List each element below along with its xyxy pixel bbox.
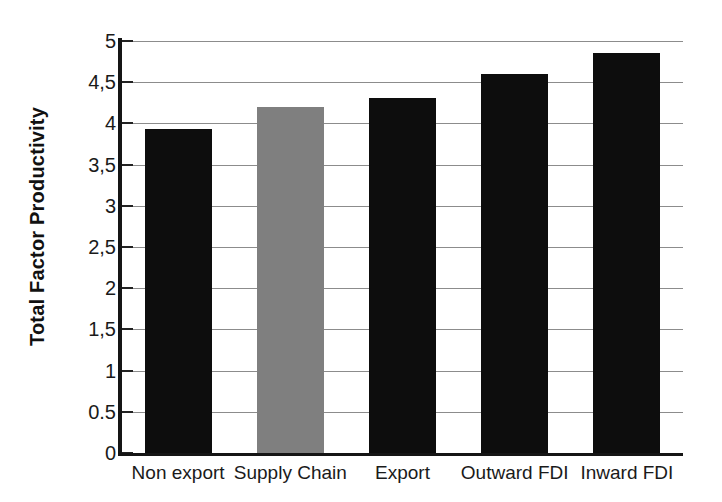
bar: [593, 53, 660, 453]
y-axis-tick-label: 5: [105, 30, 116, 53]
y-axis-tickmark: [122, 246, 133, 248]
y-axis-title-text: Total Factor Productivity: [27, 107, 50, 346]
bar: [369, 98, 436, 453]
x-axis-tick-label: Outward FDI: [461, 462, 569, 484]
x-axis-spine: [118, 453, 683, 456]
y-axis-tick-label: 4: [105, 112, 116, 135]
y-axis-tick-labels: 00.511,522,533,544,55: [58, 41, 116, 453]
bar: [145, 129, 212, 453]
y-axis-tick-label: 2: [105, 277, 116, 300]
x-axis-tick-label: Non export: [132, 462, 225, 484]
y-axis-tickmark: [122, 287, 133, 289]
y-axis-tickmark: [122, 205, 133, 207]
y-axis-tickmark: [122, 370, 133, 372]
plot-area: [122, 41, 683, 453]
x-axis-tick-labels: Non exportSupply ChainExportOutward FDII…: [122, 462, 683, 496]
y-axis-tickmark: [122, 122, 133, 124]
y-axis-tick-label: 0.5: [88, 400, 116, 423]
y-axis-tickmark: [122, 411, 133, 413]
y-axis-tick-label: 1: [105, 359, 116, 382]
y-axis-tickmark: [122, 81, 133, 83]
y-axis-tick-label: 4,5: [88, 71, 116, 94]
bar-chart: Total Factor Productivity 00.511,522,533…: [0, 0, 722, 502]
y-axis-tick-label: 1,5: [88, 318, 116, 341]
y-axis-tick-label: 0: [105, 442, 116, 465]
y-axis-tick-label: 3: [105, 194, 116, 217]
x-axis-tick-label: Inward FDI: [580, 462, 673, 484]
x-axis-tick-label: Supply Chain: [234, 462, 347, 484]
y-axis-tick-label: 2,5: [88, 236, 116, 259]
x-axis-tick-label: Export: [375, 462, 430, 484]
bar: [481, 74, 548, 453]
y-axis-spine: [118, 38, 122, 456]
y-axis-tick-label: 3,5: [88, 153, 116, 176]
y-axis-tickmark: [122, 328, 133, 330]
gridline: [122, 41, 683, 42]
bar: [257, 107, 324, 453]
y-axis-tickmark: [122, 164, 133, 166]
y-axis-tickmark: [122, 40, 133, 42]
